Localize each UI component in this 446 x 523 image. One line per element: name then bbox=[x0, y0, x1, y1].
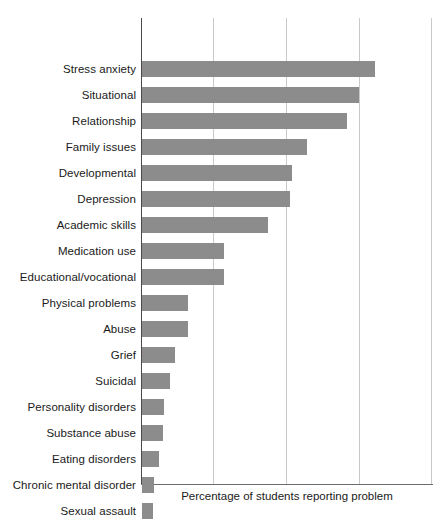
category-label: Physical problems bbox=[0, 295, 136, 311]
bar bbox=[142, 217, 268, 233]
bar-row: Sexual assault bbox=[0, 503, 446, 523]
bar bbox=[142, 321, 188, 337]
x-axis-title: Percentage of students reporting problem bbox=[141, 490, 433, 502]
bar bbox=[142, 295, 188, 311]
bar-row: Eating disorders bbox=[0, 451, 446, 477]
bar-row: Abuse bbox=[0, 321, 446, 347]
bar bbox=[142, 503, 153, 519]
bar bbox=[142, 243, 224, 259]
bar bbox=[142, 425, 163, 441]
bar-row: Stress anxiety bbox=[0, 61, 446, 87]
bar bbox=[142, 373, 170, 389]
bar-row: Academic skills bbox=[0, 217, 446, 243]
category-label: Grief bbox=[0, 347, 136, 363]
bar-row: Personality disorders bbox=[0, 399, 446, 425]
bar-row: Relationship bbox=[0, 113, 446, 139]
bar bbox=[142, 61, 375, 77]
category-label: Stress anxiety bbox=[0, 61, 136, 77]
category-label: Educational/vocational bbox=[0, 269, 136, 285]
bar-row: Substance abuse bbox=[0, 425, 446, 451]
bar bbox=[142, 165, 292, 181]
category-label: Substance abuse bbox=[0, 425, 136, 441]
category-label: Relationship bbox=[0, 113, 136, 129]
category-label: Abuse bbox=[0, 321, 136, 337]
bar-row: Depression bbox=[0, 191, 446, 217]
bar bbox=[142, 139, 307, 155]
category-label: Chronic mental disorder bbox=[0, 477, 136, 493]
category-label: Sexual assault bbox=[0, 503, 136, 519]
bar-row: Grief bbox=[0, 347, 446, 373]
bar bbox=[142, 269, 224, 285]
category-label: Academic skills bbox=[0, 217, 136, 233]
bar-row: Developmental bbox=[0, 165, 446, 191]
category-label: Family issues bbox=[0, 139, 136, 155]
bar-row: Medication use bbox=[0, 243, 446, 269]
bar bbox=[142, 399, 164, 415]
category-label: Suicidal bbox=[0, 373, 136, 389]
bar-row: Family issues bbox=[0, 139, 446, 165]
bar bbox=[142, 191, 290, 207]
bar bbox=[142, 87, 359, 103]
category-label: Personality disorders bbox=[0, 399, 136, 415]
bar-row: Educational/vocational bbox=[0, 269, 446, 295]
category-label: Developmental bbox=[0, 165, 136, 181]
bar bbox=[142, 451, 159, 467]
bar-rows: Stress anxiety Situational Relationship … bbox=[0, 61, 446, 523]
category-label: Depression bbox=[0, 191, 136, 207]
bar-row: Suicidal bbox=[0, 373, 446, 399]
bar bbox=[142, 347, 175, 363]
category-label: Situational bbox=[0, 87, 136, 103]
category-label: Medication use bbox=[0, 243, 136, 259]
bar-row: Physical problems bbox=[0, 295, 446, 321]
bar-row: Situational bbox=[0, 87, 446, 113]
category-label: Eating disorders bbox=[0, 451, 136, 467]
bar bbox=[142, 113, 347, 129]
